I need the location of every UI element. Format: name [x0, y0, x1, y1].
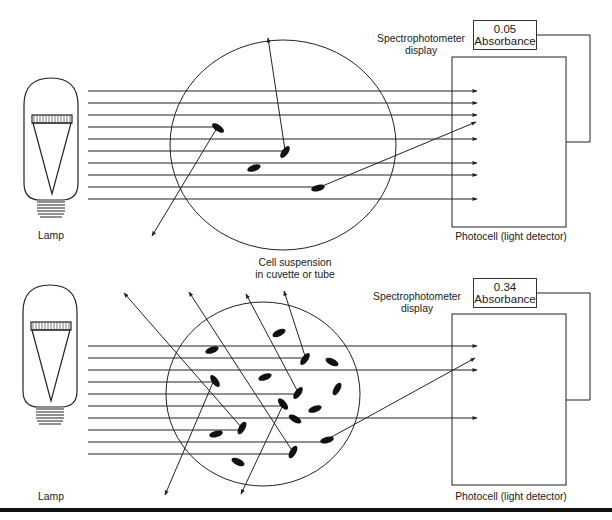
- detector-label: Photocell (light detector): [453, 230, 570, 242]
- light-beams: [88, 291, 477, 495]
- detector-label: Photocell (light detector): [453, 490, 570, 502]
- absorbance-display: 0.34 Absorbance: [473, 278, 537, 308]
- photocell: [452, 57, 566, 227]
- display-label-line2: display: [368, 302, 467, 314]
- display-wire: [537, 293, 590, 400]
- display-wire: [537, 35, 590, 142]
- absorbance-value: 0.05: [474, 23, 536, 35]
- photocell: [452, 314, 566, 485]
- display-label-line1: Spectrophotometer: [368, 290, 467, 302]
- absorbance-value: 0.34: [474, 281, 536, 293]
- cuvette-label-line1: Cell suspension: [246, 256, 345, 268]
- cuvette-label: Cell suspension in cuvette or tube: [246, 256, 345, 280]
- cuvette-circle: [170, 40, 396, 250]
- display-label-line1: Spectrophotometer: [372, 32, 471, 44]
- absorbance-unit: Absorbance: [474, 35, 536, 47]
- display-label-line2: display: [372, 44, 471, 56]
- light-beams: [88, 38, 477, 236]
- lamp-icon: [23, 285, 77, 424]
- cells: [210, 121, 325, 193]
- lamp-label: Lamp: [32, 229, 70, 241]
- lamp-label: Lamp: [32, 490, 70, 502]
- bottom-rule: [0, 508, 612, 512]
- lamp-icon: [24, 78, 78, 217]
- display-label: Spectrophotometer display: [368, 290, 467, 314]
- cuvette-label-line2: in cuvette or tube: [246, 268, 345, 280]
- panel-bottom: [23, 285, 590, 495]
- absorbance-display: 0.05 Absorbance: [473, 20, 537, 50]
- absorbance-unit: Absorbance: [474, 293, 536, 305]
- display-label: Spectrophotometer display: [372, 32, 471, 56]
- panel-top: [24, 35, 590, 250]
